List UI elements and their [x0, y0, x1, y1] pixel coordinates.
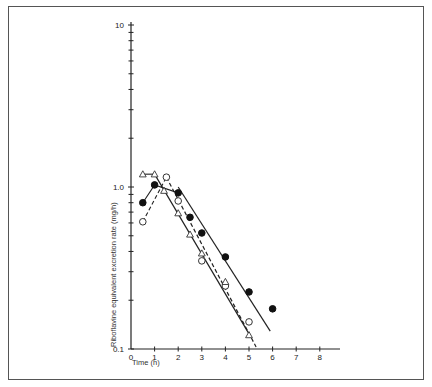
data-point-open-triangle — [187, 231, 194, 237]
data-point-filled-circle — [246, 289, 253, 296]
data-point-filled-circle — [222, 254, 229, 261]
data-point-filled-circle — [187, 214, 194, 221]
data-point-open-circle — [163, 174, 170, 181]
y-axis-label: Riboflavine equivalent excretion rate (m… — [109, 202, 118, 347]
data-point-open-circle — [140, 218, 147, 225]
data-point-open-circle — [199, 258, 206, 265]
filled-circles-connector — [143, 185, 178, 203]
x-axis-label: Time (h) — [132, 358, 160, 367]
y-tick-label: 10 — [115, 21, 124, 30]
data-point-open-circle — [175, 198, 182, 205]
x-tick-label: 4 — [223, 353, 228, 362]
data-point-filled-circle — [151, 182, 158, 189]
data-point-filled-circle — [140, 199, 147, 206]
x-tick-label: 2 — [176, 353, 181, 362]
chart: 0123456780.11.010 Time (h) Riboflavine e… — [0, 0, 432, 387]
x-tick-label: 5 — [247, 353, 252, 362]
x-tick-label: 8 — [318, 353, 323, 362]
x-tick-label: 7 — [294, 353, 299, 362]
x-tick-label: 3 — [200, 353, 205, 362]
data-point-open-triangle — [222, 278, 229, 284]
axes: 0123456780.11.010 — [113, 21, 340, 362]
data-point-filled-circle — [199, 230, 206, 237]
data-point-open-triangle — [246, 332, 253, 338]
data-point-filled-circle — [269, 306, 276, 313]
x-tick-label: 6 — [270, 353, 275, 362]
data-point-open-triangle — [161, 187, 168, 193]
y-tick-label: 1.0 — [113, 183, 125, 192]
data-point-filled-circle — [175, 190, 182, 197]
data-point-open-circle — [246, 319, 253, 326]
